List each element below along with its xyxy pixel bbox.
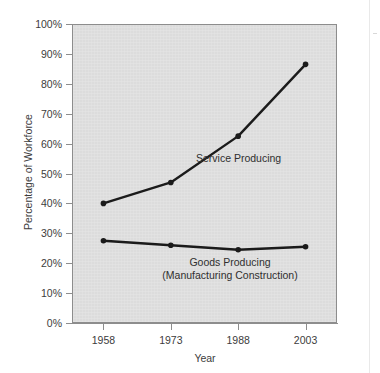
series-data-point xyxy=(101,201,107,207)
series-label-goods-producing-line1: Goods Producing xyxy=(130,256,330,269)
series-plot xyxy=(0,0,380,373)
series-data-point xyxy=(101,238,107,244)
series-data-point xyxy=(303,62,309,68)
series-data-point xyxy=(235,133,241,139)
page-mark-artifact xyxy=(373,33,377,34)
series-label-goods-producing-line2: (Manufacturing Construction) xyxy=(130,269,330,282)
series-line xyxy=(103,64,305,203)
x-axis-title: Year xyxy=(72,352,338,364)
series-data-point xyxy=(168,180,174,186)
series-line xyxy=(103,241,305,250)
series-label-goods-producing: Goods Producing (Manufacturing Construct… xyxy=(130,256,330,282)
series-data-point xyxy=(235,247,241,253)
series-label-service-producing: Service Producing xyxy=(196,152,281,165)
series-data-point xyxy=(168,242,174,248)
series-data-point xyxy=(303,244,309,250)
y-axis-title: Percentage of Workforce xyxy=(22,82,34,262)
page-edge-artifact xyxy=(369,0,370,373)
chart-figure: 0%10%20%30%40%50%60%70%80%90%100% 195819… xyxy=(0,0,380,373)
